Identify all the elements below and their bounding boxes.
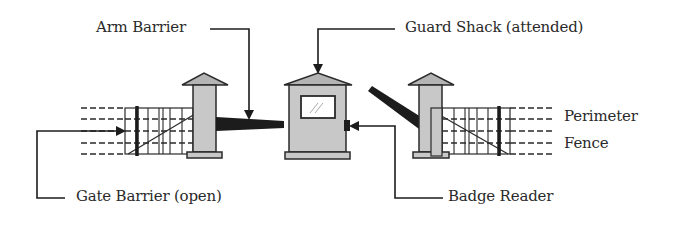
arm-barrier-right	[368, 86, 421, 129]
label-badge-reader: Badge Reader	[448, 189, 553, 204]
checkpoint-diagram: Arm Barrier Guard Shack (attended) Gate …	[0, 0, 682, 228]
label-arm-barrier: Arm Barrier	[96, 20, 186, 35]
label-gate-barrier: Gate Barrier (open)	[76, 189, 222, 204]
guard-shack	[284, 73, 352, 159]
guard-shack-leader	[318, 29, 395, 72]
arm-barrier-left	[216, 117, 284, 131]
right-gate-fence	[431, 106, 555, 156]
label-guard-shack: Guard Shack (attended)	[405, 20, 583, 35]
badge-reader	[344, 120, 350, 131]
label-perimeter: Perimeter	[564, 109, 638, 124]
left-gate-pillar	[182, 73, 228, 158]
label-fence: Fence	[564, 136, 608, 151]
shack-window	[301, 96, 335, 118]
